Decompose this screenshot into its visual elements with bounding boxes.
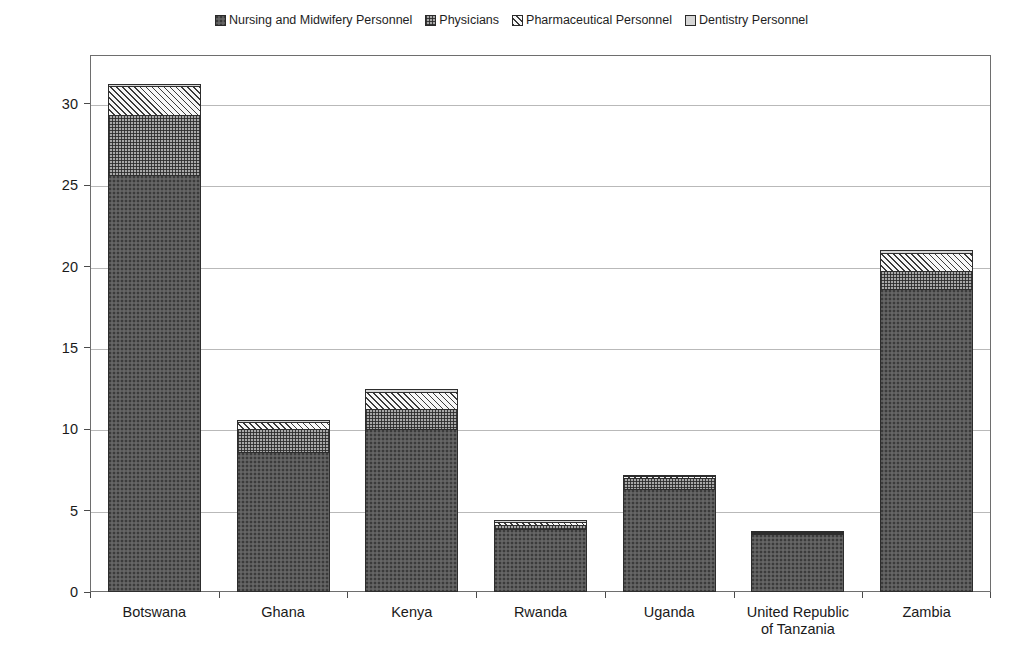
x-axis-tick-mark	[219, 592, 220, 598]
gridline	[91, 105, 990, 106]
x-axis-label-line: of Tanzania	[734, 621, 863, 638]
y-axis-tick-label: 25	[62, 177, 78, 193]
x-axis: BotswanaGhanaKenyaRwandaUgandaUnited Rep…	[90, 592, 991, 662]
y-axis-tick-label: 20	[62, 258, 78, 274]
x-axis-label: Uganda	[605, 604, 734, 621]
x-axis-label-line: Rwanda	[476, 604, 605, 621]
legend-swatch-icon	[512, 15, 523, 26]
y-axis-tick-label: 10	[62, 421, 78, 437]
gridline	[91, 186, 990, 187]
x-axis-tick-mark	[605, 592, 606, 598]
legend-swatch-icon	[215, 15, 226, 26]
x-axis-tick-mark	[862, 592, 863, 598]
gridline	[91, 512, 990, 513]
x-axis-label-line: Ghana	[219, 604, 348, 621]
x-axis-tick-mark	[90, 592, 91, 598]
legend-item: Physicians	[425, 14, 499, 27]
y-axis-tick-label: 0	[70, 584, 78, 600]
y-axis-tick-label: 15	[62, 339, 78, 355]
x-axis-label-line: Botswana	[90, 604, 219, 621]
x-axis-label: Ghana	[219, 604, 348, 621]
x-axis-label: United Republicof Tanzania	[734, 604, 863, 638]
legend-item-label: Physicians	[439, 14, 499, 27]
legend-swatch-icon	[425, 15, 436, 26]
legend-item-label: Nursing and Midwifery Personnel	[229, 14, 412, 27]
x-axis-label: Rwanda	[476, 604, 605, 621]
x-axis-label-line: United Republic	[734, 604, 863, 621]
legend-item-label: Pharmaceutical Personnel	[526, 14, 672, 27]
x-axis-label-line: Uganda	[605, 604, 734, 621]
x-axis-tick-mark	[476, 592, 477, 598]
gridlines	[91, 56, 990, 591]
legend-item: Nursing and Midwifery Personnel	[215, 14, 412, 27]
stacked-bar-chart: Nursing and Midwifery PersonnelPhysician…	[0, 0, 1023, 664]
gridline	[91, 268, 990, 269]
legend-item-label: Dentistry Personnel	[699, 14, 808, 27]
gridline	[91, 349, 990, 350]
x-axis-label: Kenya	[347, 604, 476, 621]
gridline	[91, 430, 990, 431]
legend-item: Pharmaceutical Personnel	[512, 14, 672, 27]
x-axis-label: Zambia	[862, 604, 991, 621]
x-axis-tick-mark	[347, 592, 348, 598]
plot-area	[90, 55, 991, 592]
x-axis-label: Botswana	[90, 604, 219, 621]
x-axis-tick-mark	[990, 592, 991, 598]
legend-item: Dentistry Personnel	[685, 14, 808, 27]
x-axis-label-line: Zambia	[862, 604, 991, 621]
y-axis-tick-label: 30	[62, 95, 78, 111]
y-axis-tick-label: 5	[70, 502, 78, 518]
x-axis-tick-mark	[734, 592, 735, 598]
legend-swatch-icon	[685, 15, 696, 26]
chart-legend: Nursing and Midwifery PersonnelPhysician…	[0, 14, 1023, 27]
y-axis-ticks: 051015202530	[0, 55, 90, 592]
x-axis-label-line: Kenya	[347, 604, 476, 621]
